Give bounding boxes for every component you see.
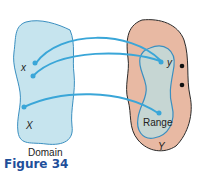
range-point-y: [159, 60, 164, 65]
domain-point-3: [22, 105, 27, 110]
range-label: Range: [143, 117, 172, 128]
domain-point-2: [31, 74, 36, 79]
unmapped-point-1: [180, 64, 185, 69]
domain-set-label: X: [26, 120, 33, 131]
domain-set-shape: [14, 21, 75, 145]
unmapped-point-2: [180, 83, 185, 88]
figure-caption: Figure 34: [4, 157, 68, 171]
codomain-element-label: y: [167, 57, 172, 68]
range-point-2: [157, 111, 162, 116]
domain-element-label: x: [21, 62, 26, 73]
codomain-set-label: Y: [158, 141, 165, 152]
domain-point-1: [33, 61, 38, 66]
